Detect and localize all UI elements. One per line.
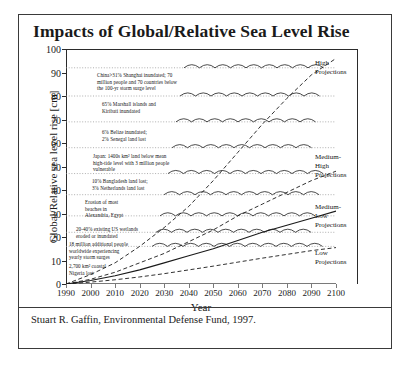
projection-label: Low Projections [315,249,347,267]
x-tick-label: 2000 [82,288,100,298]
x-tick-mark [311,284,312,288]
wave-arc-row [176,119,316,122]
x-tick-mark [115,284,116,288]
impact-annotation: 2,700 km² coastal Nigeria lost [69,263,106,276]
impact-annotation: 20-40% existing US wetlands eroded or in… [76,226,138,239]
x-tick-label: 2080 [278,288,296,298]
y-tick-label: 90 [51,67,61,78]
wave-glyphs [152,65,324,247]
page-title: Impacts of Global/Relative Sea Level Ris… [33,21,350,42]
x-tick-mark [91,284,92,288]
wave-arc-row [164,192,319,195]
x-tick-label: 1990 [57,288,75,298]
impact-annotation: 65% Marshall islands and Kiribati inunda… [102,101,156,114]
x-tick-mark [238,284,239,288]
x-tick-mark [213,284,214,288]
x-tick-mark [287,284,288,288]
y-tick-label: 50 [51,161,61,172]
wave-arc-row [184,65,324,68]
wave-arc-row [152,243,323,246]
x-tick-label: 2050 [204,288,222,298]
x-tick-label: 2100 [327,288,345,298]
x-tick-label: 2060 [229,288,247,298]
x-tick-label: 2030 [155,288,173,298]
projection-label: Medium- Low Projections [315,203,347,230]
impact-annotation: 6% Belize inundated; 2% Senegal land los… [102,129,147,142]
x-tick-mark [140,284,141,288]
y-tick-label: 60 [51,138,61,149]
x-tick-mark [336,284,337,288]
impact-annotation: China>31% Shanghai inundated; 70 million… [97,72,177,92]
y-tick-label: 10 [51,255,61,266]
impact-annotation: Erosion of most beaches in Alexandria, E… [85,199,123,219]
y-tick-label: 30 [51,208,61,219]
y-tick-label: 80 [51,91,61,102]
impact-annotation: Japan: 1400s km² land below mean high-ti… [93,153,169,173]
wave-arc-row [156,229,311,232]
wave-arc-row [180,93,320,96]
x-tick-label: 2070 [253,288,271,298]
x-tick-label: 2040 [180,288,198,298]
x-tick-mark [164,284,165,288]
impact-annotation: 18 million additional people worldwide e… [69,241,128,261]
figure-panel: Impacts of Global/Relative Sea Level Ris… [18,14,392,349]
x-tick-label: 2090 [302,288,320,298]
projection-label: Medium- High Projections [315,153,347,180]
x-tick-mark [262,284,263,288]
x-tick-label: 2020 [131,288,149,298]
projection-label: High Projections [315,59,347,77]
y-tick-label: 20 [51,232,61,243]
x-tick-mark [66,284,67,288]
credit-line: Stuart R. Gaffin, Environmental Defense … [31,314,256,325]
impact-annotation: 10% Bangladesh land lost; 3% Netherlands… [92,178,148,191]
wave-arc-row [168,170,323,173]
footer-divider [19,307,391,308]
x-tick-mark [189,284,190,288]
wave-arc-row [160,213,315,216]
y-tick-label: 40 [51,185,61,196]
y-tick-label: 100 [46,44,61,55]
y-tick-label: 70 [51,114,61,125]
right-axis-line [357,49,358,284]
x-tick-label: 2010 [106,288,124,298]
